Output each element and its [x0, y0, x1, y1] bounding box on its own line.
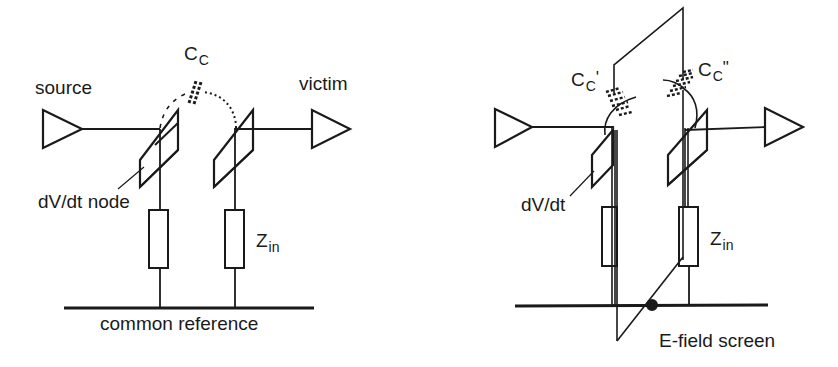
- source-node-diagonal: [140, 150, 178, 187]
- coupling-path-dotted: [202, 92, 236, 128]
- source-buffer-icon: [43, 110, 82, 148]
- source-buffer-icon-2: [495, 109, 532, 147]
- reference-bus-2: [515, 305, 768, 306]
- e-field-screen-plane: [614, 8, 683, 93]
- victim-label: victim: [299, 74, 348, 93]
- coupling-path-left: [160, 94, 185, 128]
- zin-label-2: Zin: [710, 229, 734, 248]
- cc-prime-label: CC': [571, 70, 599, 89]
- victim-buffer-icon: [312, 110, 350, 148]
- victim-node-diagonal: [214, 150, 253, 187]
- zin2-main: Z: [710, 228, 722, 249]
- cc-double-prime-label: CC": [698, 60, 729, 79]
- cc-sub: C: [199, 52, 209, 68]
- victim-wire-2: [685, 127, 765, 130]
- cc2-prime: ": [723, 58, 729, 77]
- source-node-plate-2: [592, 130, 613, 187]
- coupling-capacitor-1-icon: [606, 88, 632, 115]
- cc1-prime: ': [596, 68, 599, 87]
- zin-label: Zin: [256, 231, 280, 250]
- coupling-arc-1: [605, 97, 636, 135]
- dvdt-node-label: dV/dt node: [38, 192, 130, 211]
- coupling-arc-2: [683, 88, 697, 128]
- cc-main: C: [184, 43, 198, 64]
- cc2-sub: C: [713, 68, 723, 84]
- victim-node-plate: [214, 110, 253, 187]
- zin-sub: in: [269, 239, 280, 255]
- dvdt-label: dV/dt: [521, 195, 565, 214]
- victim-resistor-icon: [225, 210, 244, 268]
- zin2-sub: in: [723, 237, 734, 253]
- source-node-plate: [140, 110, 178, 187]
- source-label: source: [35, 78, 92, 97]
- coupling-capacitor-label: CC: [184, 44, 209, 63]
- cc1-main: C: [571, 69, 585, 90]
- e-field-screen-label: E-field screen: [659, 331, 775, 350]
- cc2-main: C: [698, 59, 712, 80]
- coupling-capacitor-icon: [189, 81, 201, 104]
- zin-main: Z: [256, 230, 268, 251]
- cc1-sub: C: [586, 78, 596, 94]
- victim-resistor-icon-2: [679, 207, 698, 266]
- dvdt-pointer-2: [570, 171, 594, 196]
- right-diagram: [495, 8, 803, 341]
- victim-buffer-icon-2: [765, 108, 803, 146]
- circuit-diagram: [0, 0, 838, 367]
- screen-bottom-edge: [617, 257, 683, 341]
- source-resistor-icon: [149, 210, 168, 268]
- common-reference-label: common reference: [100, 314, 258, 333]
